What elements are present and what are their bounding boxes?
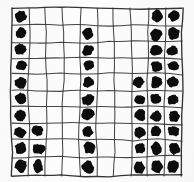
filled-cell-r4-c10 (167, 61, 179, 70)
filled-cell-r6-c9 (150, 94, 161, 104)
filled-cell-r8-c8 (134, 127, 146, 139)
filled-cell-r10-c1 (14, 160, 26, 173)
grid-line-vertical-9 (147, 8, 149, 176)
filled-cell-r6-c8 (134, 95, 145, 104)
filled-cell-r9-c2 (33, 144, 46, 155)
filled-cell-r2-c1 (16, 27, 27, 38)
filled-cell-r9-c9 (151, 141, 162, 155)
filled-cell-r8-c1 (13, 127, 26, 138)
filled-cell-r9-c5 (83, 142, 95, 154)
grid-line-vertical-1 (10, 8, 12, 176)
filled-cell-r4-c9 (151, 61, 163, 72)
grid-line-horizontal-2 (12, 24, 182, 26)
filled-cell-r3-c10 (166, 45, 178, 55)
filled-cell-r5-c10 (167, 76, 179, 87)
filled-cell-r10-c10 (167, 160, 179, 173)
filled-cell-r2-c10 (168, 27, 179, 40)
filled-cell-r1-c1 (15, 11, 27, 23)
filled-cell-r7-c1 (14, 109, 26, 121)
filled-cell-r3-c9 (150, 45, 163, 56)
grid-line-vertical-5 (79, 8, 82, 176)
grid-line-vertical-3 (45, 8, 47, 176)
filled-cell-r5-c9 (151, 76, 162, 88)
filled-cell-r9-c8 (135, 143, 145, 154)
filled-cell-r10-c2 (33, 159, 43, 173)
filled-cell-r3-c1 (14, 43, 26, 54)
grid-line-vertical-10 (164, 8, 166, 176)
filled-cell-r2-c5 (82, 28, 93, 40)
grid-line-horizontal-8 (12, 123, 182, 125)
filled-cell-r5-c8 (132, 77, 145, 88)
grid-line-horizontal-5 (12, 73, 182, 75)
filled-cell-r8-c5 (82, 126, 93, 137)
filled-cell-r10-c5 (81, 160, 94, 173)
grid-canvas (0, 0, 194, 182)
filled-cell-r4-c5 (83, 60, 94, 70)
filled-cell-r6-c5 (82, 94, 95, 105)
filled-cell-r1-c9 (152, 9, 163, 22)
grid-line-vertical-7 (113, 8, 115, 176)
grid-line-vertical-8 (130, 8, 132, 176)
filled-cell-r5-c1 (14, 77, 26, 89)
grid-line-vertical-11 (181, 8, 183, 176)
filled-cell-r10-c9 (151, 161, 163, 174)
filled-cell-r8-c9 (151, 125, 161, 136)
grid-line-vertical-6 (96, 8, 98, 176)
grid-line-horizontal-4 (12, 57, 182, 59)
filled-cell-r7-c5 (81, 109, 94, 121)
filled-cell-r4-c1 (16, 61, 28, 71)
filled-cell-r5-c5 (83, 77, 94, 88)
filled-cell-r8-c2 (31, 126, 43, 137)
filled-cell-r7-c8 (134, 109, 145, 122)
filled-cell-r1-c10 (168, 10, 180, 21)
grid-line-horizontal-3 (12, 41, 182, 43)
grid-line-horizontal-9 (12, 139, 182, 141)
filled-cell-r6-c1 (15, 92, 27, 104)
filled-cell-r3-c5 (82, 45, 94, 56)
scanned-sheet (0, 0, 194, 182)
filled-cell-r2-c9 (150, 29, 162, 42)
filled-cell-r9-c1 (14, 142, 26, 154)
filled-cell-r7-c10 (169, 111, 180, 122)
grid-line-vertical-2 (28, 8, 30, 176)
filled-cell-r6-c10 (167, 95, 178, 105)
filled-cell-r7-c9 (150, 111, 162, 122)
grid-line-vertical-4 (62, 8, 65, 176)
filled-cell-r9-c10 (169, 143, 180, 155)
filled-cell-r8-c10 (168, 126, 179, 136)
filled-cell-r10-c8 (134, 161, 146, 174)
